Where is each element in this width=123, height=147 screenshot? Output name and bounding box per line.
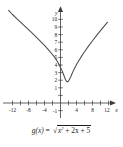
math-figure: 10 9 8 7 6 5 4 3 2 1 -1 -12 -8 -4 4 8 12… <box>0 0 123 147</box>
y-tick-label-neg1: -1 <box>53 108 58 114</box>
radicand-term3: + 5 <box>79 126 91 135</box>
function-curve <box>9 10 108 82</box>
y-axis <box>58 6 63 118</box>
caption-equals: = <box>44 126 52 135</box>
x-tick-label-4: 4 <box>75 107 78 113</box>
radicand: x2 + 2x + 5 <box>57 125 91 136</box>
x-tick-label-neg4: -4 <box>42 107 47 113</box>
radicand-term2: + 2x <box>63 126 78 135</box>
caption-function-name: g(x) <box>32 126 44 135</box>
y-tick-label-4: 4 <box>54 62 57 68</box>
x-tick-label-neg12: -12 <box>9 107 16 113</box>
y-tick-label-6: 6 <box>54 47 57 53</box>
y-tick-label-3: 3 <box>54 70 57 76</box>
x-tick-label-12: 12 <box>104 107 110 113</box>
x-tick-label-8: 8 <box>91 107 94 113</box>
graph-svg: 10 9 8 7 6 5 4 3 2 1 -1 -12 -8 -4 4 8 12… <box>0 0 123 124</box>
y-tick-label-9: 9 <box>54 24 57 30</box>
y-tick-label-7: 7 <box>54 39 57 45</box>
y-tick-label-1: 1 <box>54 85 57 91</box>
y-tick-label-2: 2 <box>54 77 57 83</box>
x-axis-label: x <box>114 107 118 113</box>
x-axis <box>3 100 116 105</box>
y-axis-arrowhead <box>58 6 63 12</box>
caption-radical: √x2 + 2x + 5 <box>52 125 92 136</box>
y-tick-label-8: 8 <box>54 32 57 38</box>
graph-plot-area: 10 9 8 7 6 5 4 3 2 1 -1 -12 -8 -4 4 8 12… <box>0 0 123 124</box>
x-axis-arrowhead <box>110 100 116 105</box>
y-tick-label-10: 10 <box>52 16 58 22</box>
x-tick-label-neg8: -8 <box>26 107 31 113</box>
figure-caption: g(x) = √x2 + 2x + 5 <box>0 125 123 136</box>
y-axis-label: y <box>54 10 58 16</box>
